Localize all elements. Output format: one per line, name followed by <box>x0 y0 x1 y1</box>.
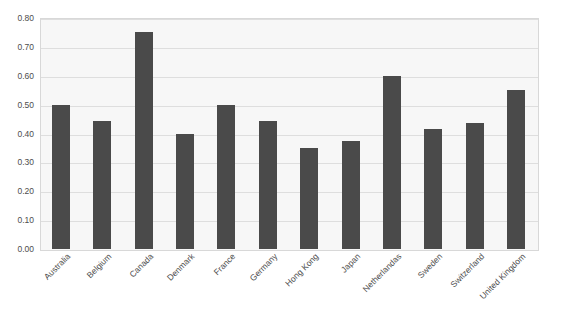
y-tick-label: 0.20 <box>17 187 34 196</box>
x-tick-label-text: Hong Kong <box>284 252 320 288</box>
x-tick-label-text: Switzerland <box>449 252 486 289</box>
bar[interactable] <box>383 76 401 249</box>
y-tick-label: 0.50 <box>17 100 34 109</box>
y-tick-label: 0.30 <box>17 158 34 167</box>
x-tick-label-text: Australia <box>42 252 71 281</box>
x-tick-label-text: France <box>213 252 238 277</box>
x-tick-label-text: Belgium <box>85 252 113 280</box>
y-axis: 0.800.700.600.500.400.300.200.100.00 <box>0 0 40 275</box>
bar[interactable] <box>466 123 484 249</box>
x-tick-label-text: Sweden <box>417 252 445 280</box>
bar[interactable] <box>176 134 194 250</box>
bar[interactable] <box>52 105 70 249</box>
bar[interactable] <box>135 32 153 249</box>
x-tick-label-text: Canada <box>127 252 154 279</box>
y-tick-label: 0.00 <box>17 245 34 254</box>
bar[interactable] <box>217 105 235 249</box>
x-tick-label-text: United Kingdom <box>479 252 528 301</box>
y-tick-label: 0.10 <box>17 216 34 225</box>
x-tick-label-text: Germany <box>248 252 279 283</box>
y-tick-label: 0.60 <box>17 72 34 81</box>
x-tick-label-text: Netherlandas <box>361 252 403 294</box>
x-tick-label-text: Japan <box>339 252 361 274</box>
bars-layer <box>40 18 537 249</box>
bar[interactable] <box>93 121 111 249</box>
bar-chart: 0.800.700.600.500.400.300.200.100.00 Aus… <box>0 0 561 312</box>
y-tick-label: 0.70 <box>17 43 34 52</box>
y-tick-label: 0.80 <box>17 14 34 23</box>
y-tick-label: 0.40 <box>17 129 34 138</box>
x-tick-label-text: Denmark <box>166 252 196 282</box>
x-axis: AustraliaBelgiumCanadaDenmarkFranceGerma… <box>40 250 537 312</box>
bar[interactable] <box>259 121 277 249</box>
